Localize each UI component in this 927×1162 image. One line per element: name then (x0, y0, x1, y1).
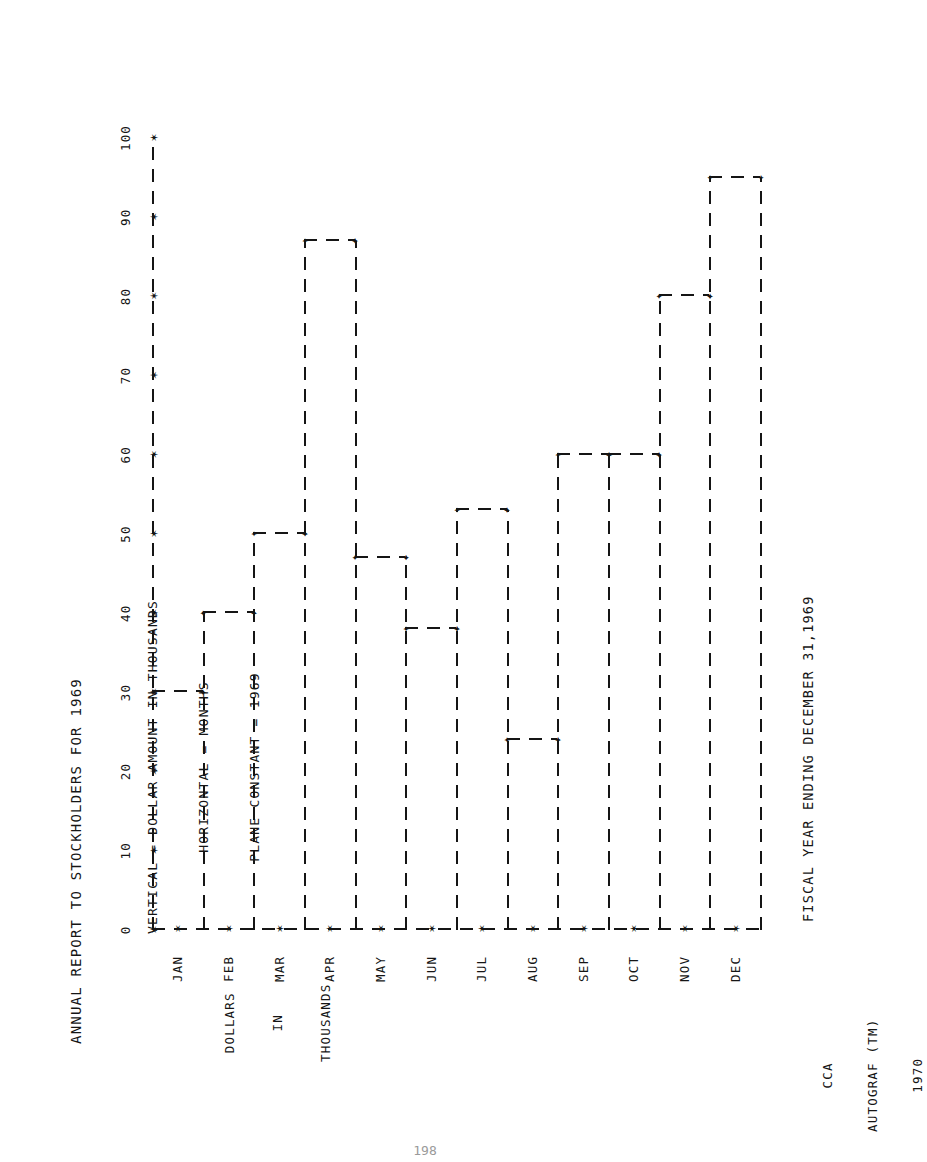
data-edge-outer (659, 294, 710, 296)
x-tick-mark (477, 924, 486, 933)
y-tick-label: 70 (118, 367, 133, 384)
x-tick-label: MAR (271, 956, 286, 982)
data-point-marker (149, 689, 156, 696)
data-point-marker (554, 451, 561, 458)
data-edge-top (203, 613, 205, 930)
x-tick-label: MAY (373, 956, 388, 982)
data-edge-bottom (760, 178, 762, 930)
y-tick-label: 80 (118, 288, 133, 305)
y-tick-label: 20 (118, 763, 133, 780)
x-tick-mark (275, 924, 284, 933)
data-edge-top (557, 455, 559, 930)
x-tick-label: JAN (170, 956, 185, 982)
y-tick-label: 90 (118, 208, 133, 225)
y-tick-label: 30 (118, 684, 133, 701)
y-tick-mark (149, 608, 158, 617)
x-tick-label: APR (322, 956, 337, 982)
data-point-marker (453, 507, 460, 514)
x-tick-label: AUG (525, 956, 540, 982)
data-edge-outer (152, 690, 203, 692)
chart-caption: FISCAL YEAR ENDING DECEMBER 31,1969 (800, 596, 816, 922)
data-edge-outer (709, 176, 760, 178)
y-tick-mark (149, 133, 158, 142)
data-point-marker (453, 626, 460, 633)
y-tick-mark (149, 371, 158, 380)
x-tick-mark (376, 924, 385, 933)
data-point-marker (655, 293, 662, 300)
data-edge-top (405, 629, 407, 930)
data-edge-outer (405, 627, 456, 629)
data-point-marker (757, 174, 764, 181)
y-tick-mark (149, 291, 158, 300)
data-edge-top (608, 455, 610, 930)
page-number: 198 (0, 1143, 850, 1158)
data-edge-outer (608, 453, 659, 455)
data-edge-top (456, 510, 458, 930)
data-point-marker (655, 451, 662, 458)
data-point-marker (706, 293, 713, 300)
data-edge-outer (304, 239, 355, 241)
x-tick-mark (680, 924, 689, 933)
x-tick-label: OCT (626, 956, 641, 982)
y-tick-mark (149, 212, 158, 221)
x-tick-label: NOV (677, 956, 692, 982)
y-tick-label: 40 (118, 604, 133, 621)
x-tick-mark (224, 924, 233, 933)
y-axis-label-line-0: DOLLARS (222, 983, 238, 1062)
y-tick-label: 50 (118, 525, 133, 542)
data-edge-top (355, 558, 357, 930)
x-tick-label: JUL (474, 956, 489, 982)
data-point-marker (351, 237, 358, 244)
x-tick-mark (579, 924, 588, 933)
x-tick-label: JUN (423, 956, 438, 982)
data-point-marker (605, 451, 612, 458)
autograf-stamp: CCA AUTOGRAF (TM) 1970 (790, 1019, 927, 1132)
x-tick-label: SEP (575, 956, 590, 982)
y-tick-label: 0 (118, 926, 133, 935)
stamp-line-1: AUTOGRAF (TM) (865, 1019, 880, 1132)
y-tick-label: 60 (118, 446, 133, 463)
data-edge-outer (203, 611, 254, 613)
data-edge-top (709, 178, 711, 930)
plot-area: 0102030405060708090100JANFEBMARAPRMAYJUN… (152, 138, 760, 930)
data-edge-outer (456, 508, 507, 510)
data-edge-top (152, 692, 154, 930)
data-point-marker (402, 554, 409, 561)
x-tick-label: FEB (221, 956, 236, 982)
stamp-line-2: 1970 (910, 1019, 925, 1132)
data-point-marker (199, 610, 206, 617)
chart-title: ANNUAL REPORT TO STOCKHOLDERS FOR 1969 (68, 678, 84, 1044)
data-point-marker (503, 736, 510, 743)
data-point-marker (706, 174, 713, 181)
data-edge-top (507, 740, 509, 930)
data-point-marker (351, 554, 358, 561)
y-axis-label-line-1: IN (270, 983, 286, 1062)
x-tick-mark (629, 924, 638, 933)
x-tick-mark (325, 924, 334, 933)
data-edge-top (253, 534, 255, 930)
data-edge-outer (253, 532, 304, 534)
data-edge-outer (507, 738, 558, 740)
x-tick-label: DEC (727, 956, 742, 982)
data-point-marker (554, 736, 561, 743)
data-point-marker (199, 689, 206, 696)
y-tick-label: 100 (118, 125, 133, 151)
y-tick-label: 10 (118, 842, 133, 859)
data-edge-outer (355, 556, 406, 558)
data-point-marker (250, 610, 257, 617)
data-point-marker (503, 507, 510, 514)
x-tick-mark (427, 924, 436, 933)
data-point-marker (301, 237, 308, 244)
data-edge-top (304, 241, 306, 930)
y-axis-label-line-2: THOUSANDS (318, 983, 334, 1062)
data-edge-outer (557, 453, 608, 455)
stamp-line-0: CCA (820, 1019, 835, 1132)
y-axis-label: DOLLARS IN THOUSANDS (190, 983, 366, 1062)
x-tick-mark (528, 924, 537, 933)
x-tick-mark (731, 924, 740, 933)
data-point-marker (250, 531, 257, 538)
data-edge-top (659, 296, 661, 930)
data-point-marker (301, 531, 308, 538)
x-tick-mark (173, 924, 182, 933)
